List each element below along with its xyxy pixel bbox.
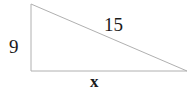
vertical-leg-label: 9 (9, 37, 19, 56)
triangle-figure: 9 15 x (0, 0, 193, 92)
horizontal-leg-label: x (90, 73, 99, 90)
hypotenuse-label: 15 (104, 15, 123, 34)
